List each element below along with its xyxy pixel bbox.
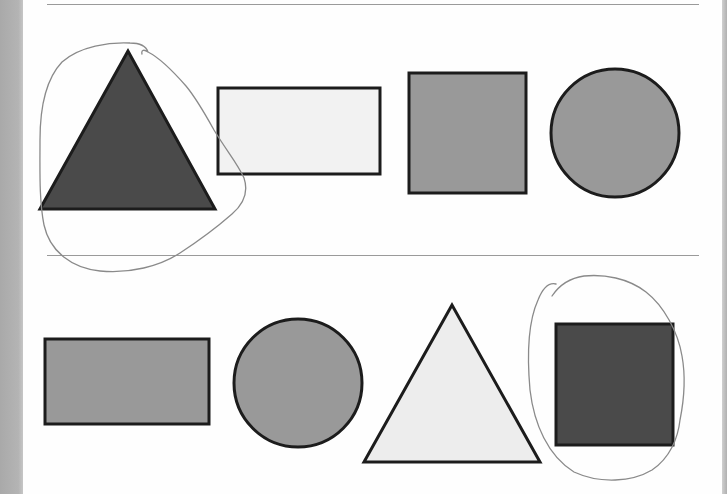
- row2-circle-mid[interactable]: [234, 319, 362, 447]
- row2-triangle-light[interactable]: [364, 305, 540, 462]
- row-1: [40, 51, 679, 209]
- row2-rectangle-mid[interactable]: [45, 339, 209, 424]
- row1-triangle-dark[interactable]: [40, 51, 215, 209]
- worksheet-drawing: [0, 0, 727, 494]
- row1-circle-mid[interactable]: [551, 69, 679, 197]
- row2-square-dark[interactable]: [556, 324, 673, 445]
- row-2: [45, 305, 673, 462]
- row1-rectangle-light[interactable]: [218, 88, 380, 174]
- row1-square-mid[interactable]: [409, 73, 526, 193]
